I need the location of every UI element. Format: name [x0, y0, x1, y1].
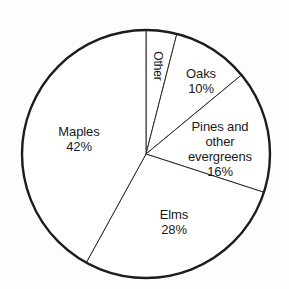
pie-slice-group	[22, 30, 270, 278]
pie-chart: OtherOaks10%Pines and other evergreens16…	[0, 0, 289, 289]
pie-chart-graphic	[0, 0, 289, 289]
